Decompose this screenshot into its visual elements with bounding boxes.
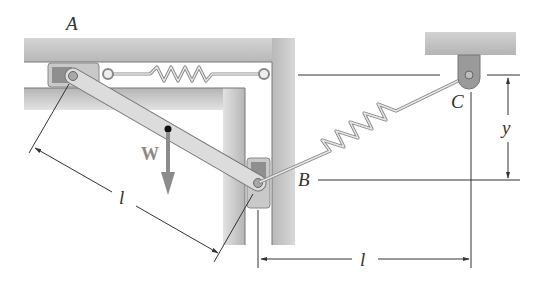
center-of-mass-icon [165, 126, 172, 133]
outer-top-wall [24, 38, 295, 62]
support-c [425, 32, 516, 89]
label-horizontal-distance: l [360, 250, 365, 269]
spring-hook-left [103, 69, 113, 79]
label-bar-length: l [119, 188, 124, 207]
spring-hook-right [259, 69, 269, 79]
ceiling [425, 32, 516, 55]
outer-right-wall [272, 38, 295, 245]
diagram-stage: A B C W l l y [0, 0, 535, 282]
label-weight: W [141, 145, 159, 163]
pin-a-icon [69, 72, 78, 81]
label-vertical-distance: y [502, 118, 510, 137]
arrow-down-icon [161, 172, 175, 195]
pin-c-icon [465, 71, 473, 79]
mechanism-diagram [0, 0, 535, 282]
label-point-b: B [298, 170, 310, 189]
label-point-a: A [66, 14, 78, 33]
spring-horizontal [103, 67, 269, 81]
label-point-c: C [451, 92, 464, 111]
